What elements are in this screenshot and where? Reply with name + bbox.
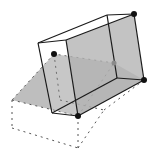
- top-right-vertex-dot: [131, 11, 137, 17]
- solid-edge: [107, 14, 134, 15]
- hidden-vertex-dot: [112, 61, 117, 66]
- diagram-canvas: [0, 0, 156, 162]
- bottom-vertex-dot: [75, 113, 81, 119]
- right-vertex-dot: [141, 77, 147, 83]
- left-hinge-vertex-dot: [51, 51, 57, 57]
- dashed-edge: [12, 128, 78, 148]
- cuboid-rotation-diagram: [0, 0, 156, 162]
- solid-box-faces: [38, 14, 144, 116]
- dashed-edge: [78, 110, 104, 148]
